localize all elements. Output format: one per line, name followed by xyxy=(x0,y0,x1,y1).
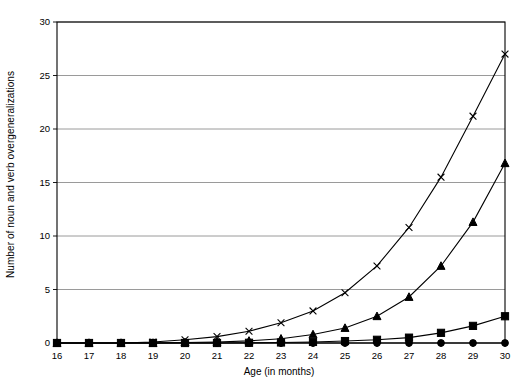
x-axis-title: Age (in months) xyxy=(0,366,518,377)
x-tick-label-19: 19 xyxy=(148,350,159,361)
x-tick-label-23: 23 xyxy=(276,350,287,361)
x-tick-label-30: 30 xyxy=(500,350,511,361)
series-circle-marker xyxy=(374,340,381,347)
series-circle-marker xyxy=(438,340,445,347)
series-triangle-marker xyxy=(501,159,509,167)
series-circle-marker xyxy=(310,340,317,347)
x-tick-label-24: 24 xyxy=(308,350,319,361)
series-circle-marker xyxy=(54,340,61,347)
series-circle-marker xyxy=(150,340,157,347)
chart-container: Number of noun and verb overgeneralizati… xyxy=(0,0,518,390)
x-axis-title-label: Age (in months) xyxy=(204,366,315,377)
series-circle-marker xyxy=(342,340,349,347)
series-cross-marker xyxy=(470,113,477,120)
series-circle-marker xyxy=(182,340,189,347)
series-triangle-line xyxy=(57,163,505,343)
x-tick-label-21: 21 xyxy=(212,350,223,361)
series-circle-marker xyxy=(246,340,253,347)
x-tick-label-28: 28 xyxy=(436,350,447,361)
series-circle-marker xyxy=(406,340,413,347)
plot-area: 0510152025301617181920212223242526272829… xyxy=(0,0,518,390)
y-tick-label-0: 0 xyxy=(45,337,50,348)
y-tick-label-25: 25 xyxy=(39,70,50,81)
x-tick-label-26: 26 xyxy=(372,350,383,361)
series-square-marker xyxy=(501,313,508,320)
series-circle-marker xyxy=(278,340,285,347)
series-circle-marker xyxy=(214,340,221,347)
series-cross-marker xyxy=(374,263,381,270)
x-tick-label-16: 16 xyxy=(52,350,63,361)
series-cross-marker xyxy=(438,174,445,181)
series-circle-marker xyxy=(470,340,477,347)
series-cross-marker xyxy=(406,224,413,231)
y-tick-label-30: 30 xyxy=(39,16,50,27)
y-tick-label-5: 5 xyxy=(45,284,50,295)
series-cross-marker xyxy=(278,319,285,326)
series-cross-marker xyxy=(310,308,317,315)
x-tick-label-18: 18 xyxy=(116,350,127,361)
x-tick-label-25: 25 xyxy=(340,350,351,361)
series-cross-marker xyxy=(342,289,349,296)
x-tick-label-29: 29 xyxy=(468,350,479,361)
x-tick-label-17: 17 xyxy=(84,350,95,361)
y-tick-label-20: 20 xyxy=(39,123,50,134)
series-cross-line xyxy=(57,54,505,343)
x-tick-label-20: 20 xyxy=(180,350,191,361)
series-triangle-marker xyxy=(373,312,381,320)
series-square-marker xyxy=(437,329,444,336)
series-square-marker xyxy=(469,322,476,329)
series-triangle-marker xyxy=(469,218,477,226)
y-tick-label-10: 10 xyxy=(39,230,50,241)
x-tick-label-27: 27 xyxy=(404,350,415,361)
series-circle-marker xyxy=(86,340,93,347)
y-tick-label-15: 15 xyxy=(39,177,50,188)
x-tick-label-22: 22 xyxy=(244,350,255,361)
series-circle-marker xyxy=(502,340,509,347)
series-triangle-marker xyxy=(341,324,349,332)
series-circle-marker xyxy=(118,340,125,347)
